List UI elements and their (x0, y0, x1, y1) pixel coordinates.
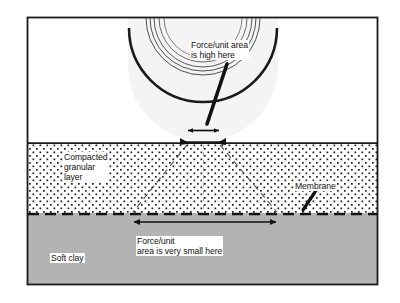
label-compacted-granular-layer: Compactedgranularlayer (63, 152, 109, 183)
label-force-low: Force/unitarea is very small here (136, 236, 223, 256)
label-force-high-line1: Force/unit area (191, 40, 248, 50)
label-compacted-line2: granular (64, 162, 95, 172)
label-force-high-line2: is high here (191, 50, 235, 60)
label-force-low-line2: area is very small here (137, 246, 222, 256)
label-compacted-line1: Compacted (64, 152, 108, 162)
label-force-low-line1: Force/unit (137, 236, 175, 246)
label-membrane: Membrane (294, 181, 337, 191)
label-force-high: Force/unit areais high here (190, 40, 249, 60)
label-soft-clay: Soft clay (50, 253, 85, 263)
label-compacted-line3: layer (64, 172, 82, 182)
